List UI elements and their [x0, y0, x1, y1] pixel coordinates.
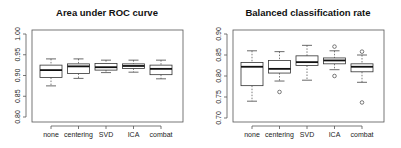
y-tick-label: 0.95 — [14, 48, 21, 62]
box-SVD — [95, 60, 117, 72]
outlier-point — [333, 45, 337, 49]
y-tick-label: 0.85 — [215, 48, 222, 62]
x-tick-label: ICA — [128, 131, 140, 138]
outlier-point — [278, 90, 282, 94]
x-tick-label: none — [244, 131, 260, 138]
chart-title: Area under ROC curve — [56, 7, 158, 18]
x-tick-label: SVD — [300, 131, 314, 138]
box-centering — [269, 52, 291, 94]
x-tick-label: none — [43, 131, 59, 138]
outlier-point — [360, 50, 364, 54]
y-tick-label: 1.00 — [14, 27, 21, 41]
outlier-point — [360, 101, 364, 105]
x-tick-label: centering — [265, 131, 294, 139]
y-tick-label: 0.70 — [215, 111, 222, 125]
x-tick-label: centering — [64, 131, 93, 139]
figure: Area under ROC curve0.800.850.900.951.00… — [0, 0, 401, 148]
box-none — [241, 51, 263, 101]
chart-title: Balanced classification rate — [245, 7, 370, 18]
y-tick-label: 0.75 — [215, 90, 222, 104]
box-none — [40, 59, 62, 86]
y-tick-label: 0.90 — [14, 69, 21, 83]
box-combat — [150, 60, 172, 79]
box-ICA — [123, 60, 145, 72]
outlier-point — [333, 74, 337, 78]
y-tick-label: 0.80 — [215, 69, 222, 83]
boxplot-panel-2: Balanced classification rate0.700.750.80… — [215, 7, 384, 139]
x-tick-label: ICA — [329, 131, 341, 138]
boxplot-panel-1: Area under ROC curve0.800.850.900.951.00… — [14, 7, 183, 139]
box-centering — [68, 59, 90, 79]
box-ICA — [324, 45, 346, 78]
y-tick-label: 0.90 — [215, 27, 222, 41]
y-tick-label: 0.80 — [14, 110, 21, 124]
x-tick-label: combat — [150, 131, 173, 138]
box-SVD — [296, 45, 318, 80]
x-tick-label: SVD — [99, 131, 113, 138]
x-tick-label: combat — [351, 131, 374, 138]
box-combat — [351, 50, 373, 104]
y-tick-label: 0.85 — [14, 89, 21, 103]
